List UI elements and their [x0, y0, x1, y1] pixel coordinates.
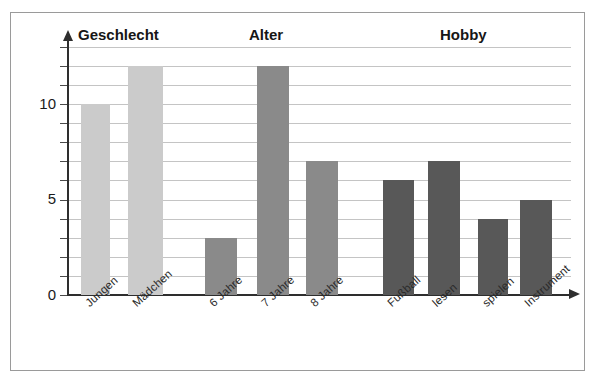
chart-frame	[10, 12, 585, 371]
